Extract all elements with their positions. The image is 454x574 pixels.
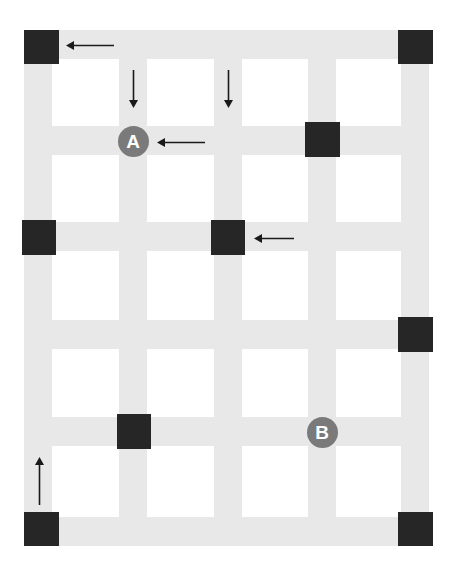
street-horizontal — [24, 517, 429, 546]
direction-arrow-down-icon — [222, 70, 235, 108]
direction-arrow-up-icon — [33, 457, 46, 505]
node-label-b: B — [307, 417, 338, 448]
block-marker — [211, 220, 245, 255]
street-horizontal — [24, 126, 429, 155]
block-marker — [117, 414, 151, 449]
street-vertical — [401, 30, 429, 546]
direction-arrow-down-icon — [127, 70, 140, 108]
block-marker — [398, 512, 433, 546]
block-marker — [22, 220, 56, 255]
street-grid-diagram: AB — [0, 0, 454, 574]
street-vertical — [308, 30, 336, 546]
block-marker — [24, 30, 59, 64]
direction-arrow-left-icon — [66, 39, 114, 52]
block-marker — [398, 317, 433, 352]
street-horizontal — [24, 320, 429, 349]
direction-arrow-left-icon — [157, 136, 205, 149]
street-horizontal — [24, 417, 429, 446]
direction-arrow-left-icon — [254, 232, 294, 245]
block-marker — [24, 512, 59, 546]
node-label-a: A — [118, 126, 149, 157]
block-marker — [305, 122, 340, 157]
block-marker — [398, 30, 433, 64]
